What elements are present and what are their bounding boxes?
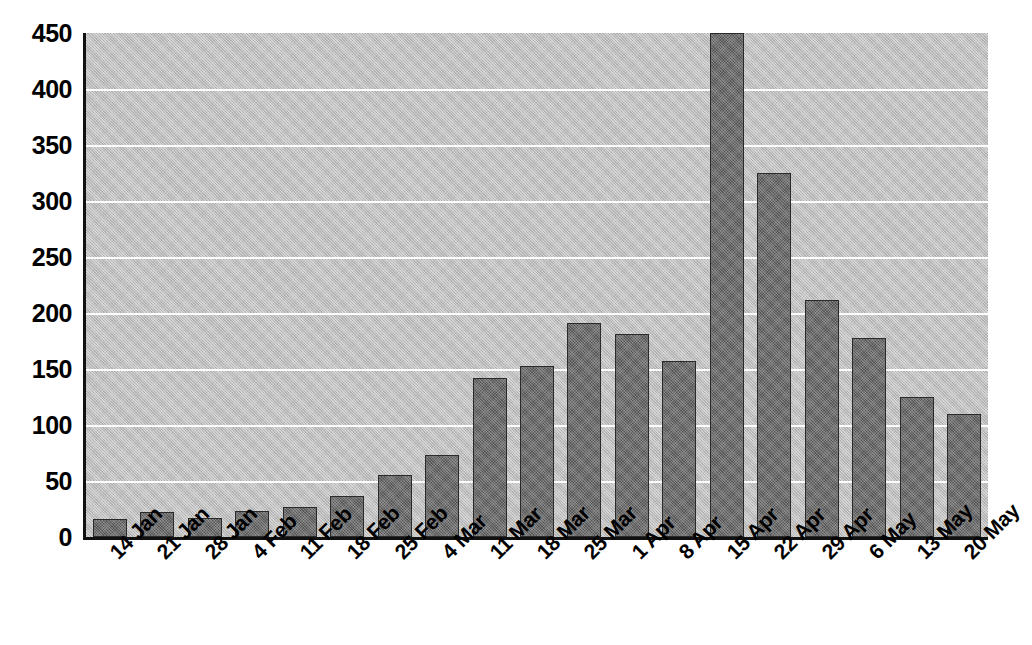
- bar-slot: [561, 33, 608, 537]
- bar-slot: [656, 33, 703, 537]
- bar-slot: [228, 33, 275, 537]
- x-axis-tick: 25 Mar: [558, 547, 605, 645]
- x-axis-tick: 28 Jan: [178, 547, 225, 645]
- bar-slot: [323, 33, 370, 537]
- x-axis-tick: 18 Mar: [510, 547, 557, 645]
- y-axis-tick-label: 400: [0, 77, 72, 102]
- y-axis-tick-label: 100: [0, 413, 72, 438]
- bars-series: [86, 33, 988, 537]
- bar[interactable]: [710, 33, 744, 537]
- y-axis-tick-label: 350: [0, 133, 72, 158]
- y-axis-tick-label: 250: [0, 245, 72, 270]
- x-axis: 14 Jan21 Jan28 Jan4 Feb11 Feb18 Feb25 Fe…: [83, 537, 985, 645]
- bar-slot: [513, 33, 560, 537]
- x-axis-tick: 11 Mar: [463, 547, 510, 645]
- bar-slot: [798, 33, 845, 537]
- bar-slot: [941, 33, 988, 537]
- bar-slot: [751, 33, 798, 537]
- bar[interactable]: [662, 361, 696, 537]
- y-axis-tick-label: 150: [0, 357, 72, 382]
- bar[interactable]: [805, 300, 839, 537]
- x-axis-tick: 4 Feb: [225, 547, 272, 645]
- x-axis-tick: 21 Jan: [130, 547, 177, 645]
- y-axis: 450400350300250200150100500: [0, 0, 72, 645]
- bar-slot: [466, 33, 513, 537]
- bar-slot: [86, 33, 133, 537]
- x-axis-tick: 18 Feb: [320, 547, 367, 645]
- bar-slot: [276, 33, 323, 537]
- x-axis-tick: 6 May: [843, 547, 890, 645]
- x-axis-tick: 25 Feb: [368, 547, 415, 645]
- x-axis-tick: 11 Feb: [273, 547, 320, 645]
- x-axis-tick: 4 Mar: [415, 547, 462, 645]
- bar-slot: [133, 33, 180, 537]
- bar-slot: [181, 33, 228, 537]
- x-axis-tick: 15 Apr: [700, 547, 747, 645]
- x-axis-tick: 14 Jan: [83, 547, 130, 645]
- bar-slot: [893, 33, 940, 537]
- bar-chart: 450400350300250200150100500 14 Jan21 Jan…: [0, 0, 1032, 645]
- y-axis-tick-label: 300: [0, 189, 72, 214]
- x-axis-tick: 20 May: [938, 547, 985, 645]
- bar-slot: [608, 33, 655, 537]
- bar-slot: [703, 33, 750, 537]
- x-axis-tick: 1 Apr: [605, 547, 652, 645]
- plot-area: [83, 33, 988, 540]
- y-axis-tick-label: 200: [0, 301, 72, 326]
- bar-slot: [371, 33, 418, 537]
- bar-slot: [846, 33, 893, 537]
- y-axis-tick-label: 0: [0, 525, 72, 550]
- bar-slot: [418, 33, 465, 537]
- x-axis-tick: 13 May: [890, 547, 937, 645]
- y-axis-tick-label: 450: [0, 21, 72, 46]
- y-axis-tick-label: 50: [0, 469, 72, 494]
- x-axis-tick: 29 Apr: [795, 547, 842, 645]
- bar[interactable]: [757, 173, 791, 537]
- x-axis-tick: 22 Apr: [748, 547, 795, 645]
- x-axis-tick: 8 Apr: [653, 547, 700, 645]
